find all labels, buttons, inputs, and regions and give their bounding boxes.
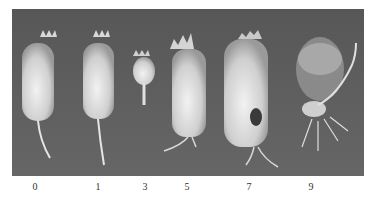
- label-3: 3: [135, 181, 155, 192]
- label-1: 1: [88, 181, 108, 192]
- label-7: 7: [239, 181, 259, 192]
- label-5: 5: [177, 181, 197, 192]
- radish-photo: [12, 9, 364, 176]
- label-9: 9: [301, 181, 321, 192]
- label-0: 0: [25, 181, 45, 192]
